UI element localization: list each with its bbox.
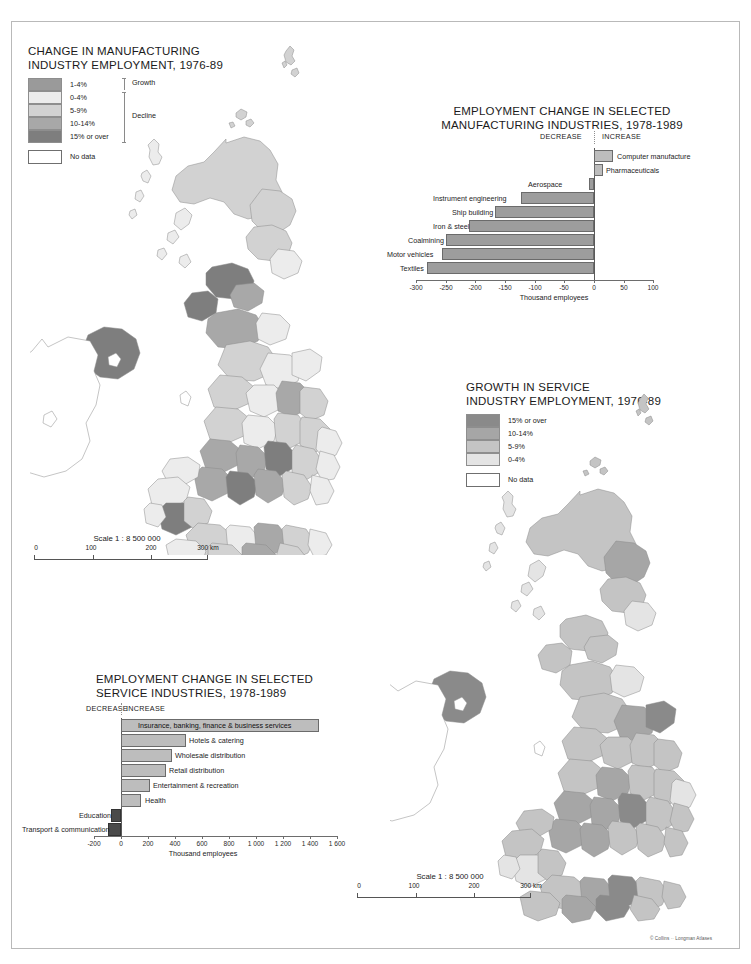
x-tick-label: -50 [552, 284, 576, 291]
bar-label: Wholesale distribution [175, 751, 245, 760]
x-tick [446, 280, 447, 283]
scalebar-tick [93, 555, 94, 559]
x-axis-title: Thousand employees [474, 293, 634, 302]
x-tick-label: 50 [612, 284, 636, 291]
bar-coalmining [446, 234, 594, 246]
x-tick-label: 400 [163, 840, 187, 847]
manufacturing-chart: EMPLOYMENT CHANGE IN SELECTED MANUFACTUR… [412, 104, 724, 294]
x-tick [202, 836, 203, 839]
x-tick [229, 836, 230, 839]
chart-title-line1: EMPLOYMENT CHANGE IN SELECTED [412, 104, 712, 118]
x-tick-label: -100 [523, 284, 547, 291]
growth-bracket-tick [122, 78, 126, 79]
atlas-page: CHANGE IN MANUFACTURING INDUSTRY EMPLOYM… [0, 0, 751, 964]
x-tick [121, 836, 122, 839]
scalebar-tick-label: 100 [78, 544, 104, 551]
legend-swatch [28, 130, 62, 143]
legend-label: 5-9% [70, 106, 87, 115]
zero-divider [121, 703, 122, 715]
growth-label: Growth [132, 78, 155, 87]
legend-swatch [28, 104, 62, 117]
x-tick [175, 836, 176, 839]
scalebar-tick-label: 100 [401, 882, 427, 889]
x-tick-label: 1 000 [244, 840, 268, 847]
scalebar-title: Scale 1 : 8 500 000 [365, 872, 535, 881]
bar-aerospace [589, 178, 594, 190]
legend-label: No data [70, 152, 95, 161]
bar-ship-building [495, 206, 594, 218]
increase-label: INCREASE [602, 132, 641, 141]
x-tick [416, 280, 417, 283]
scalebar-map2: Scale 1 : 8 500 000 0 100 200 300 km [355, 872, 535, 902]
bar-label: Entertainment & recreation [153, 781, 239, 790]
x-tick [505, 280, 506, 283]
bar-label: Education [79, 811, 111, 820]
bar-label: Retail distribution [169, 766, 224, 775]
zero-divider [594, 131, 595, 144]
x-tick [310, 836, 311, 839]
copyright-notice: © Collins ·· Longman Atlases [650, 936, 712, 941]
legend-item-decline-0-4: 0-4% [28, 91, 258, 104]
x-tick [653, 280, 654, 283]
x-tick-label: 0 [109, 840, 133, 847]
bar-transport-communication [108, 823, 121, 836]
legend-label: 15% or over [70, 132, 109, 141]
legend-label: 10-14% [70, 119, 95, 128]
bar-label: Coalmining [408, 236, 444, 245]
decline-bracket-tick-top [122, 92, 126, 93]
manufacturing-legend: CHANGE IN MANUFACTURING INDUSTRY EMPLOYM… [28, 44, 258, 163]
bar-label: Insurance, banking, finance & business s… [138, 721, 291, 730]
x-tick-label: 600 [190, 840, 214, 847]
bar-instrument-engineering [521, 192, 594, 204]
map-service-svg [390, 385, 730, 935]
service-plot: DECREASE INCREASE Insurance, banking, fi… [28, 704, 358, 844]
x-tick-label: -150 [493, 284, 517, 291]
x-tick [475, 280, 476, 283]
bar-label: Motor vehicles [387, 250, 433, 259]
scalebar-tick-label: 200 [138, 544, 164, 551]
bar-wholesale-distribution [121, 749, 172, 762]
legend-item-no-data: No data [28, 150, 258, 163]
x-tick [283, 836, 284, 839]
scalebar-tick-label: 300 km [190, 544, 226, 551]
bar-iron-and-steel [469, 220, 594, 232]
manufacturing-plot: DECREASE INCREASE Computer manufacture P… [412, 132, 724, 294]
manufacturing-legend-title-line2: INDUSTRY EMPLOYMENT, 1976-89 [28, 58, 258, 72]
chart-title-line1: EMPLOYMENT CHANGE IN SELECTED [96, 672, 358, 686]
legend-swatch [28, 91, 62, 104]
x-tick [535, 280, 536, 283]
decrease-label: DECREASE [540, 132, 582, 141]
x-tick-label: -300 [404, 284, 428, 291]
x-tick-label: 0 [582, 284, 606, 291]
service-chart: EMPLOYMENT CHANGE IN SELECTED SERVICE IN… [28, 672, 358, 842]
bar-retail-distribution [121, 764, 166, 777]
bar-label: Iron & steel [433, 222, 469, 231]
legend-swatch [28, 117, 62, 130]
increase-label: INCREASE [126, 704, 165, 713]
x-tick-label: -200 [82, 840, 106, 847]
bar-label: Transport & communication [22, 825, 110, 834]
legend-swatch [28, 78, 62, 91]
legend-swatch-no-data [28, 150, 62, 164]
x-axis-title: Thousand employees [133, 849, 273, 858]
scalebar-map1: Scale 1 : 8 500 000 0 100 200 300 km [32, 534, 212, 564]
bar-textiles [427, 262, 594, 274]
scalebar-tick [416, 893, 417, 897]
bar-health [121, 794, 141, 807]
bar-label: Instrument engineering [433, 194, 507, 203]
x-tick [94, 836, 95, 839]
x-tick-label: 100 [641, 284, 665, 291]
scalebar-tick-label: 300 km [513, 882, 549, 889]
x-tick-label: 1 600 [325, 840, 349, 847]
legend-label: 0-4% [70, 93, 87, 102]
x-tick-label: 800 [217, 840, 241, 847]
scalebar-tick [151, 555, 152, 559]
x-tick [256, 836, 257, 839]
decline-bracket [124, 92, 125, 143]
bar-hotels-catering [121, 734, 186, 747]
x-tick [594, 280, 595, 283]
x-tick-label: -200 [463, 284, 487, 291]
bar-entertainment-recreation [121, 779, 150, 792]
x-tick [564, 280, 565, 283]
growth-bracket [124, 78, 125, 90]
